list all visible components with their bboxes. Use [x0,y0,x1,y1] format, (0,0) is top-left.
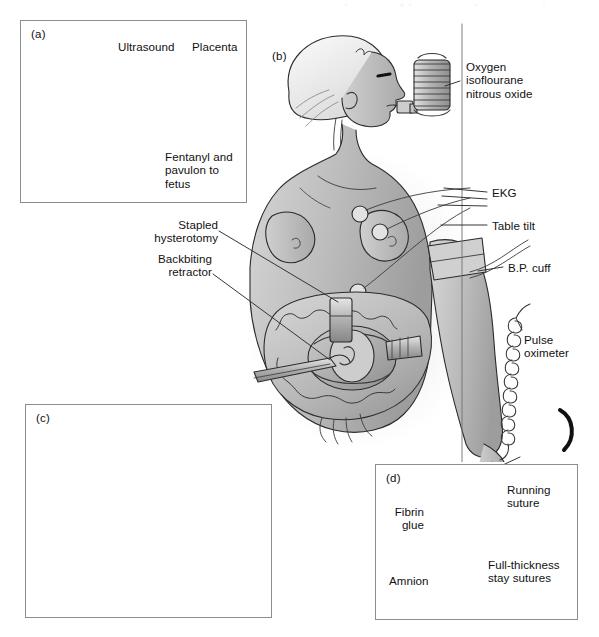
label-fentanyl-pavulon: Fentanyl and pavulon to fetus [165,150,233,190]
page-header-artifact [336,2,594,10]
panel-c [25,404,272,618]
fetal-surgery-figure: (a) (c) (d) (b) Ultrasound Placenta Fent… [0,0,599,637]
label-backbiting-retractor: Backbiting retractor [86,252,212,279]
label-running-suture: Running suture [507,483,551,510]
label-anesthetic-gases: Oxygen isoflourane nitrous oxide [466,60,532,100]
panel-d-tag: (d) [386,472,401,484]
label-pulse-oximeter: Pulse oximeter [524,333,569,360]
label-stapled-hysterotomy: Stapled hysterotomy [86,218,218,245]
label-table-tilt: Table tilt [492,219,535,232]
label-placenta: Placenta [192,40,238,53]
label-amnion: Amnion [389,574,429,587]
label-bp-cuff: B.P. cuff [508,261,551,274]
panel-b-tag: (b) [272,50,287,62]
label-ultrasound: Ultrasound [118,40,175,53]
label-stay-sutures: Full-thickness stay sutures [488,558,560,585]
panel-c-tag: (c) [36,412,50,424]
label-fibrin-glue: Fibrin glue [372,505,424,532]
panel-a-tag: (a) [31,28,46,40]
label-ekg: EKG [492,186,517,199]
